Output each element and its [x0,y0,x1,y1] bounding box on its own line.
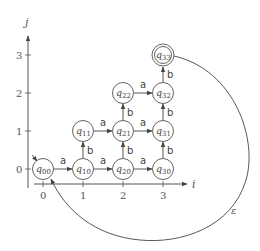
edge-label: b [127,145,133,156]
x-axis-label: i [192,178,196,191]
x-tick-1: 1 [80,190,86,201]
edge-label: b [87,145,93,156]
initial-state-arrow [32,155,37,161]
x-tick-3: 3 [160,190,166,201]
edge-label: a [140,155,146,166]
y-tick-2: 2 [16,88,22,99]
transitions-a: a a a a a a [54,79,152,169]
edge-label: a [140,117,146,128]
edge-label: b [167,107,173,118]
state-q10: q10 [73,159,94,180]
y-tick-3: 3 [16,50,22,61]
state-q31: q31 [153,121,174,142]
edge-q33-q00 [51,56,249,241]
diagram-svg: j 0 1 2 3 i 0 1 2 3 a a [0,0,260,251]
state-q20: q20 [113,159,134,180]
state-q30: q30 [153,159,174,180]
edge-label: a [60,155,66,166]
state-q21: q21 [113,121,134,142]
epsilon-label: ε [231,205,236,216]
edge-label: a [100,155,106,166]
transitions-b: b b b b b b [83,67,173,158]
y-tick-0: 0 [16,164,22,175]
edge-label: a [140,79,146,90]
edge-label: b [127,107,133,118]
automaton-diagram: j 0 1 2 3 i 0 1 2 3 a a [0,0,260,251]
y-axis-label: j [22,16,29,29]
state-q32: q32 [153,83,174,104]
state-q00: q00 [33,159,54,180]
y-axis: j 0 1 2 3 [16,16,31,188]
state-q11: q11 [73,121,94,142]
edge-label: b [167,69,173,80]
x-axis: i 0 1 2 3 [34,178,196,201]
x-tick-2: 2 [120,190,126,201]
state-q22: q22 [113,83,134,104]
edge-label: b [167,145,173,156]
state-q33-accepting: q33 [152,44,174,66]
epsilon-transition: ε [51,56,249,241]
edge-label: a [100,117,106,128]
x-tick-0: 0 [40,190,46,201]
y-tick-1: 1 [16,126,22,137]
